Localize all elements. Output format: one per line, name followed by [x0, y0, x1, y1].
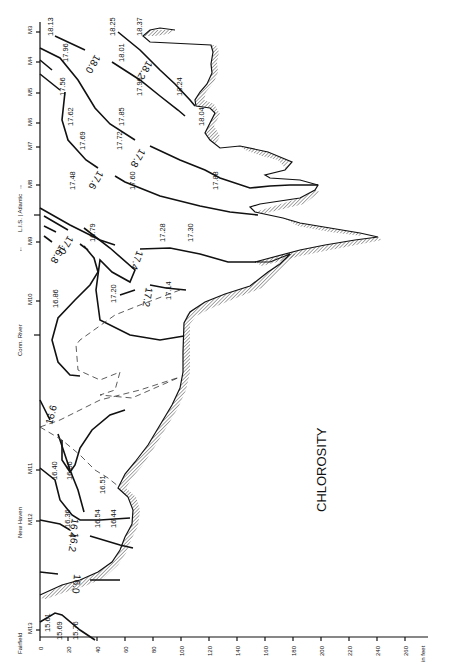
- iso-17-4: 17.4: [128, 249, 145, 271]
- station-m11: M11: [27, 462, 33, 474]
- place-conn-river: Conn. River: [17, 324, 23, 356]
- iso-17-8: 17.8: [128, 147, 147, 170]
- value-18-13: 18.13: [46, 17, 55, 36]
- place-new-haven: New Haven: [17, 507, 23, 538]
- depth-tick-260: 260: [403, 645, 409, 656]
- place-fairfield: Fairfield: [17, 633, 23, 654]
- value-15-61: 15.61: [43, 613, 52, 632]
- value-18-24: 18.24: [175, 77, 184, 96]
- iso-16-6: 16.6: [43, 403, 59, 425]
- value-16-44: 16.44: [109, 509, 118, 528]
- arrow-left-icon: ←: [17, 246, 23, 252]
- depth-tick-240: 240: [375, 645, 381, 656]
- value-17-28: 17.28: [158, 223, 167, 242]
- iso-16-0: 16.0: [70, 574, 83, 595]
- value-16-36: 16.36: [63, 509, 72, 528]
- value-17-60: 17.60: [128, 171, 137, 190]
- figure-title: CHLOROSITY: [314, 427, 329, 512]
- station-m13: M13: [27, 622, 33, 634]
- station-m5: M5: [27, 87, 33, 96]
- depth-tick-40: 40: [95, 646, 101, 653]
- value-17-85: 17.85: [117, 107, 126, 126]
- depth-tick-140: 140: [235, 645, 241, 656]
- depth-tick-0: 0: [38, 646, 44, 650]
- value-17-88: 17.88: [211, 171, 220, 190]
- iso-18-0: 18.0: [83, 53, 102, 76]
- value-17-96-b: 17.96: [135, 77, 144, 96]
- value-17-69: 17.69: [78, 131, 87, 150]
- station-m8: M8: [27, 179, 33, 188]
- value-17-56: 17.56: [58, 77, 67, 96]
- depth-tick-180: 180: [291, 645, 297, 656]
- depth-tick-60: 60: [123, 646, 129, 653]
- value-17-30: 17.30: [186, 223, 195, 242]
- value-16-54: 16.54: [93, 509, 102, 528]
- value-17-96: 17.96: [61, 43, 70, 62]
- depth-tick-220: 220: [347, 645, 353, 656]
- value-17-48: 17.48: [68, 171, 77, 190]
- value-17-72: 17.72: [115, 131, 124, 150]
- station-m3: M3: [27, 25, 33, 34]
- depth-unit-label: in feet: [420, 645, 426, 662]
- arrow-right-icon: →: [17, 184, 23, 190]
- value-18-25: 18.25: [108, 17, 117, 36]
- depth-tick-80: 80: [151, 646, 157, 653]
- value-15-76: 15.76: [71, 621, 80, 640]
- value-18-04: 18.04: [197, 107, 206, 126]
- station-axis: [34, 22, 40, 637]
- station-m4: M4: [27, 56, 33, 65]
- depth-tick-labels: 0 20 40 60 80 100 120 140 160 180 200 22…: [38, 637, 426, 662]
- value-18-37: 18.37: [135, 17, 144, 36]
- value-15-69: 15.69: [55, 621, 64, 640]
- value-16-51: 16.51: [98, 475, 107, 494]
- depth-tick-20: 20: [66, 646, 72, 653]
- value-16-79: 16.79: [88, 223, 97, 242]
- depth-tick-160: 160: [263, 645, 269, 656]
- value-16-56: 16.56: [65, 461, 74, 480]
- chlorosity-section-figure: M3 M4 M5 M6 M7 M8 M9 M10 M11 M12 M13 Fai…: [0, 0, 449, 665]
- value-17-62: 17.62: [66, 107, 75, 126]
- station-m10: M10: [27, 293, 33, 305]
- value-17-14: 17.14: [164, 281, 173, 300]
- station-labels: M3 M4 M5 M6 M7 M8 M9 M10 M11 M12 M13 Fai…: [17, 25, 33, 654]
- station-m9: M9: [27, 236, 33, 245]
- isolines: [40, 32, 318, 640]
- station-m7: M7: [27, 141, 33, 150]
- sea-bottom-profile: [40, 28, 382, 599]
- dashed-boundaries: [40, 290, 180, 486]
- depth-tick-120: 120: [207, 645, 213, 656]
- value-18-01: 18.01: [117, 43, 126, 62]
- value-16-86: 16.86: [51, 289, 60, 308]
- place-lis-atlantic: L.I.S. | Atlantic: [17, 194, 23, 232]
- iso-17-2: 17.2: [141, 287, 155, 309]
- depth-tick-100: 100: [179, 645, 185, 656]
- value-16-40: 16.40: [50, 461, 59, 480]
- value-17-20: 17.20: [109, 284, 118, 303]
- station-m6: M6: [27, 117, 33, 126]
- iso-16-8: 16.8: [48, 243, 67, 266]
- depth-tick-200: 200: [319, 645, 325, 656]
- station-m12: M12: [27, 513, 33, 525]
- iso-17-6: 17.6: [86, 169, 105, 192]
